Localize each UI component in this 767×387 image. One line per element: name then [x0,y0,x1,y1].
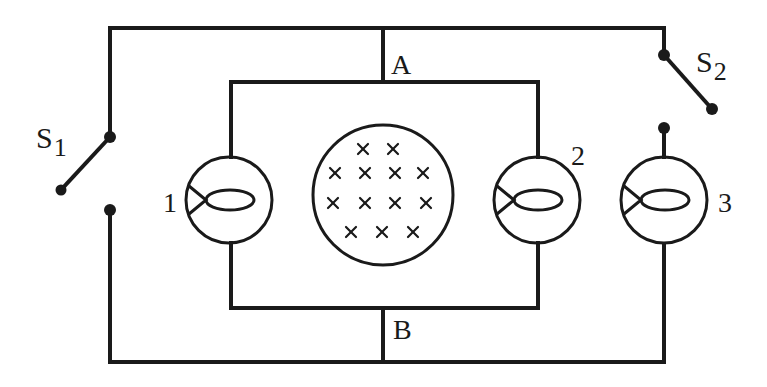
lamp-3: 3 [621,122,732,243]
cross-icon [360,198,370,208]
field-crosses [328,144,431,237]
cross-icon [330,168,340,178]
switch-s2[interactable]: S2 [658,45,727,115]
switch-s2-pivot [658,49,670,61]
cross-icon [388,144,398,154]
lamp-3-bulb-icon [621,157,707,243]
switch-s2-label: S2 [696,45,727,86]
cross-icon [358,144,368,154]
cross-icon [360,168,370,178]
lamp-1-label: 1 [163,187,177,218]
lamp-1-leads [189,186,206,214]
inner-bottom-wire [231,243,538,308]
lamp-1: 1 [163,157,272,243]
node-b-label: B [393,314,412,345]
lamp-3-leads [624,186,641,214]
lamp-3-label: 3 [718,187,732,218]
lamp-2-label: 2 [571,140,585,171]
lamp-2-filament [514,190,562,210]
cross-icon [421,198,431,208]
cross-icon [377,227,387,237]
lamp-3-filament [641,190,689,210]
cross-icon [418,168,428,178]
lamp-1-bulb-icon [186,157,272,243]
switch-s1-label: S1 [36,121,67,162]
lamp-1-filament [206,190,254,210]
switch-s2-tip [706,103,718,115]
switch-s1[interactable]: S1 [36,121,116,216]
switch-s2-contact [658,122,670,134]
lamp-2-bulb-icon [494,157,580,243]
inner-top-wire [231,82,538,157]
field-boundary [313,125,453,265]
switch-s1-contact [104,204,116,216]
cross-icon [390,198,400,208]
cross-icon [328,198,338,208]
cross-icon [390,168,400,178]
switch-s1-tip [56,185,67,196]
inner-loop [231,82,538,308]
circuit-diagram: S1 S2 A B 1 2 3 [0,0,767,387]
switch-s1-pivot [104,131,116,143]
lamp-2-leads [497,186,514,214]
switch-s1-blade[interactable] [61,137,110,190]
cross-icon [408,227,418,237]
cross-icon [346,227,356,237]
magnetic-field-region [313,125,453,265]
node-a-label: A [391,49,412,80]
bottom-outer-wire [110,210,664,362]
